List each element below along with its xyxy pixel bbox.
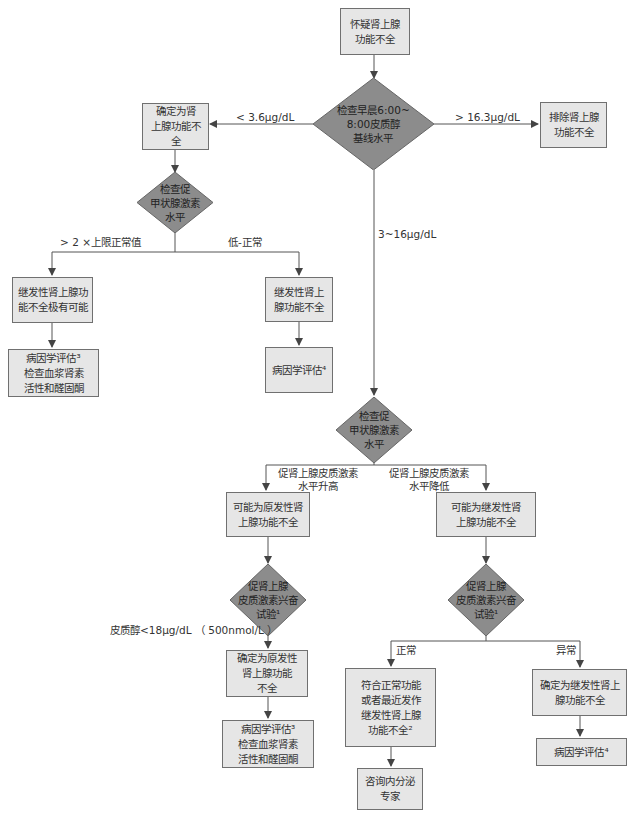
hormone-check-diamond-left: 检查促 甲状腺激素 水平	[137, 172, 213, 233]
diamond-text: 促肾上腺 皮质激素兴奋 试验¹	[238, 579, 298, 621]
hormone-check-diamond-center: 检查促 甲状腺激素 水平	[336, 397, 412, 463]
exclude-adrenal-insufficiency-box: 排除肾上腺 功能不全	[540, 102, 607, 148]
label-normal: 正常	[396, 644, 416, 657]
secondary-insufficiency-mid-box: 继发性肾上 腺功能不全	[265, 277, 333, 322]
confirm-secondary-box: 确定为继发性肾上 腺功能不全	[532, 669, 627, 716]
start-box: 怀疑肾上腺 功能不全	[340, 8, 410, 55]
confirm-primary-box: 确定为原发性 肾上腺功能 不全	[226, 650, 308, 697]
label-abnormal: 异常	[556, 644, 576, 657]
label-lt-3-6: < 3.6μg/dL	[236, 111, 294, 124]
label-gt-16-3: > 16.3μg/dL	[455, 111, 520, 124]
etiology-evaluation-4-right-box: 病因学评估⁴	[536, 738, 627, 766]
possible-primary-box: 可能为原发性肾 上腺功能不全	[226, 492, 310, 537]
diamond-text: 检查早晨6:00~ 8:00皮质醇 基线水平	[337, 103, 409, 145]
etiology-evaluation-3-bottom-box: 病因学评估³ 检查血浆肾素 活性和醛固酮	[222, 720, 314, 768]
cortisol-check-diamond: 检查早晨6:00~ 8:00皮质醇 基线水平	[313, 78, 434, 170]
label-low-normal: 低-正常	[228, 236, 262, 249]
normal-or-recent-secondary-box: 符合正常功能 或者最近发作 继发性肾上腺 功能不全²	[345, 668, 436, 747]
etiology-evaluation-3-left-box: 病因学评估³ 检查血浆肾素 活性和醛固酮	[8, 349, 99, 397]
acth-stimulation-diamond-right: 促肾上腺 皮质激素兴奋 试验¹	[448, 564, 524, 636]
label-acth-high: 促肾上腺皮质激素 水平升高	[278, 467, 358, 493]
label-gt-2x-uln: > 2 ×上限正常值	[60, 236, 141, 249]
confirm-adrenal-insufficiency-box: 确定为肾 上腺功能不全	[142, 103, 209, 150]
diamond-text: 检查促 甲状腺激素 水平	[349, 409, 399, 451]
label-cortisol-lt-18: 皮质醇<18μg/dL （ 500nmol/L ）	[110, 624, 277, 637]
etiology-evaluation-4-mid-box: 病因学评估⁴	[265, 347, 333, 393]
label-range-3-16: 3~16μg/dL	[378, 228, 436, 241]
secondary-likely-box: 继发性肾上腺功 能不全极有可能	[12, 277, 93, 323]
consult-endocrinologist-box: 咨询内分泌 专家	[357, 768, 423, 810]
diamond-text: 检查促 甲状腺激素 水平	[150, 182, 200, 224]
label-acth-low: 促肾上腺皮质激素 水平降低	[389, 467, 469, 493]
possible-secondary-box: 可能为继发性肾 上腺功能不全	[436, 492, 536, 537]
diamond-text: 促肾上腺 皮质激素兴奋 试验¹	[456, 579, 516, 621]
